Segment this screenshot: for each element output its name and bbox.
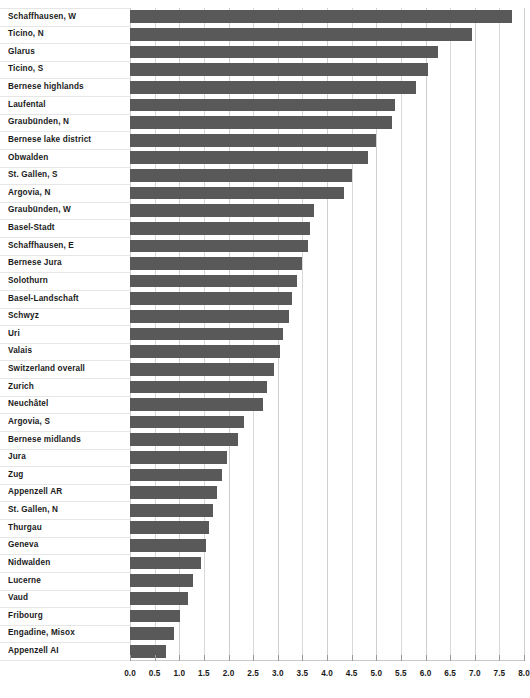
bar[interactable] xyxy=(130,151,368,164)
bar[interactable] xyxy=(130,469,222,482)
bar[interactable] xyxy=(130,222,310,235)
category-label: Zug xyxy=(8,471,23,479)
bar-row[interactable] xyxy=(130,504,524,517)
bar-row[interactable] xyxy=(130,539,524,552)
bar[interactable] xyxy=(130,557,201,570)
bar-row[interactable] xyxy=(130,592,524,605)
bar-row[interactable] xyxy=(130,557,524,570)
bar[interactable] xyxy=(130,257,302,270)
bar-row[interactable] xyxy=(130,28,524,41)
bar-row[interactable] xyxy=(130,627,524,640)
row-separator xyxy=(0,78,130,79)
category-label: Neuchâtel xyxy=(8,400,48,408)
bar[interactable] xyxy=(130,521,209,534)
bar-row[interactable] xyxy=(130,151,524,164)
x-axis-tick-label: 1.0 xyxy=(173,669,185,678)
bar-row[interactable] xyxy=(130,521,524,534)
bar-row[interactable] xyxy=(130,187,524,200)
bar-row[interactable] xyxy=(130,134,524,147)
bar[interactable] xyxy=(130,204,314,217)
bar[interactable] xyxy=(130,28,472,41)
bar-row[interactable] xyxy=(130,345,524,358)
x-axis-tick-label: 5.5 xyxy=(395,669,407,678)
bar[interactable] xyxy=(130,134,376,147)
bar[interactable] xyxy=(130,645,166,658)
bar-row[interactable] xyxy=(130,381,524,394)
bar[interactable] xyxy=(130,381,267,394)
row-separator xyxy=(0,449,130,450)
x-axis-tick-label: 7.0 xyxy=(469,669,481,678)
bar[interactable] xyxy=(130,63,428,76)
bar-row[interactable] xyxy=(130,469,524,482)
category-label: Ticino, N xyxy=(8,30,44,38)
category-label: Schwyz xyxy=(8,312,39,320)
row-separator xyxy=(0,61,130,62)
bar[interactable] xyxy=(130,416,244,429)
bar[interactable] xyxy=(130,240,308,253)
bar-row[interactable] xyxy=(130,204,524,217)
bar[interactable] xyxy=(130,504,213,517)
x-axis-tick-label: 2.0 xyxy=(223,669,235,678)
bar-row[interactable] xyxy=(130,257,524,270)
row-separator xyxy=(0,519,130,520)
x-axis-tick xyxy=(499,655,500,661)
bar-row[interactable] xyxy=(130,222,524,235)
bar-row[interactable] xyxy=(130,46,524,59)
bar[interactable] xyxy=(130,292,292,305)
bar-row[interactable] xyxy=(130,416,524,429)
x-axis-tick-label: 4.0 xyxy=(321,669,333,678)
bar-row[interactable] xyxy=(130,486,524,499)
bar[interactable] xyxy=(130,81,416,94)
bar[interactable] xyxy=(130,169,352,182)
row-separator xyxy=(0,625,130,626)
bar[interactable] xyxy=(130,345,280,358)
bar-row[interactable] xyxy=(130,310,524,323)
category-label: Appenzell AI xyxy=(8,647,59,655)
bar-row[interactable] xyxy=(130,363,524,376)
x-axis-tick-label: 4.5 xyxy=(346,669,358,678)
bar[interactable] xyxy=(130,99,395,112)
bar[interactable] xyxy=(130,187,344,200)
bar[interactable] xyxy=(130,627,174,640)
category-label: Schaffhausen, W xyxy=(8,13,76,21)
category-label: Solothurn xyxy=(8,277,48,285)
category-label: Lucerne xyxy=(8,577,41,585)
bar[interactable] xyxy=(130,451,227,464)
bar[interactable] xyxy=(130,610,180,623)
bar-row[interactable] xyxy=(130,169,524,182)
bar[interactable] xyxy=(130,574,193,587)
bar-row[interactable] xyxy=(130,99,524,112)
bar-row[interactable] xyxy=(130,398,524,411)
bar[interactable] xyxy=(130,116,392,129)
x-axis-tick xyxy=(204,655,205,661)
bar[interactable] xyxy=(130,398,263,411)
bar-row[interactable] xyxy=(130,63,524,76)
bar[interactable] xyxy=(130,486,217,499)
bar[interactable] xyxy=(130,275,297,288)
bar[interactable] xyxy=(130,363,274,376)
bar-row[interactable] xyxy=(130,292,524,305)
bar-row[interactable] xyxy=(130,451,524,464)
category-label: Thurgau xyxy=(8,524,42,532)
bar-row[interactable] xyxy=(130,610,524,623)
x-axis-tick-label: 3.5 xyxy=(297,669,309,678)
category-label: Bernese Jura xyxy=(8,259,62,267)
bar[interactable] xyxy=(130,592,188,605)
bar-row[interactable] xyxy=(130,433,524,446)
bar-row[interactable] xyxy=(130,574,524,587)
row-separator xyxy=(0,202,130,203)
bar-row[interactable] xyxy=(130,116,524,129)
bar-row[interactable] xyxy=(130,10,524,23)
bar-row[interactable] xyxy=(130,81,524,94)
row-separator xyxy=(0,184,130,185)
bar[interactable] xyxy=(130,433,238,446)
bar-row[interactable] xyxy=(130,275,524,288)
bar-row[interactable] xyxy=(130,240,524,253)
bar-row[interactable] xyxy=(130,328,524,341)
category-label: Vaud xyxy=(8,594,28,602)
bar[interactable] xyxy=(130,310,289,323)
bar[interactable] xyxy=(130,539,206,552)
bar[interactable] xyxy=(130,328,283,341)
bar[interactable] xyxy=(130,10,512,23)
bar[interactable] xyxy=(130,46,438,59)
